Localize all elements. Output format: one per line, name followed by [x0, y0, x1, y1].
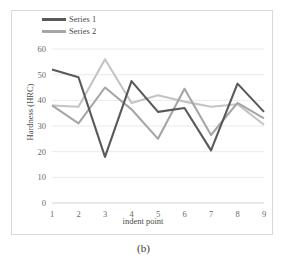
- chart-legend: Series 1 Series 2: [42, 14, 162, 38]
- y-tick-label: 10: [38, 172, 47, 182]
- data-series-line: [52, 70, 264, 157]
- y-tick-label: 60: [38, 44, 47, 54]
- y-tick-label: 40: [38, 95, 47, 105]
- y-axis-title: Hardness (HRC): [25, 52, 35, 172]
- legend-entry-series-1[interactable]: Series 1: [42, 14, 162, 25]
- y-tick-label: 30: [38, 121, 47, 131]
- x-axis-title: indent point: [12, 216, 274, 226]
- figure-container: 0102030405060123456789 Series 1 Series 2…: [0, 0, 287, 269]
- y-tick-label: 50: [38, 70, 47, 80]
- legend-label-series-2: Series 2: [69, 27, 96, 36]
- line-chart-plot: 0102030405060123456789: [12, 11, 274, 236]
- legend-entry-series-2[interactable]: Series 2: [42, 26, 162, 37]
- legend-label-series-1: Series 1: [69, 15, 96, 24]
- y-tick-label: 0: [42, 198, 46, 208]
- y-tick-label: 20: [38, 147, 47, 157]
- chart-frame: 0102030405060123456789 Series 1 Series 2…: [11, 10, 273, 235]
- figure-caption: (b): [0, 242, 287, 254]
- legend-swatch-series-2: [42, 30, 66, 33]
- legend-swatch-series-1: [42, 18, 66, 21]
